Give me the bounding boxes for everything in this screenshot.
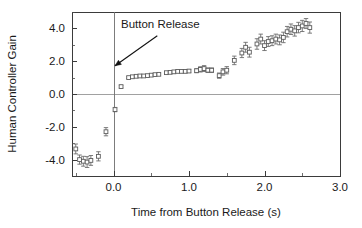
data-point	[104, 128, 108, 136]
data-marker	[285, 30, 289, 34]
data-marker	[172, 70, 176, 74]
data-marker	[153, 73, 157, 77]
data-marker	[97, 154, 101, 158]
x-axis-title: Time from Button Release (s)	[131, 206, 281, 218]
button-release-annotation: Button Release	[115, 18, 200, 66]
data-marker	[119, 85, 123, 89]
data-marker	[164, 71, 168, 75]
data-marker	[266, 40, 270, 44]
y-tick-label-0: 4.0	[49, 22, 65, 34]
data-point	[119, 85, 123, 89]
data-marker	[248, 50, 252, 54]
data-marker	[300, 24, 304, 28]
y-axis-tick-labels: 4.02.00.0-2.0-4.0	[45, 22, 65, 165]
data-point	[157, 72, 161, 76]
data-marker	[187, 69, 191, 73]
data-marker	[149, 73, 153, 77]
annotation-label-0: Button Release	[121, 18, 200, 30]
data-point	[96, 152, 100, 161]
data-marker	[81, 159, 85, 163]
data-marker	[304, 22, 308, 26]
y-tick-label-2: 0.0	[49, 88, 65, 100]
chart-canvas: 0.01.02.03.0 4.02.00.0-2.0-4.0 Button Re…	[0, 0, 362, 228]
y-axis-title: Human Controller Gain	[6, 35, 18, 153]
y-tick-label-3: -2.0	[45, 121, 65, 133]
data-marker	[297, 26, 301, 30]
data-marker	[78, 158, 82, 162]
x-axis-tick-labels: 0.01.02.03.0	[106, 181, 348, 193]
y-tick-label-1: 2.0	[49, 55, 65, 67]
data-point	[232, 56, 236, 65]
data-marker	[274, 37, 278, 41]
data-marker	[240, 51, 244, 55]
data-marker	[225, 68, 229, 72]
data-marker	[89, 159, 93, 163]
x-tick-label-3: 3.0	[332, 181, 348, 193]
data-point	[209, 68, 213, 73]
data-marker	[217, 74, 221, 78]
data-marker	[146, 74, 150, 78]
data-marker	[308, 26, 312, 30]
data-marker	[293, 29, 297, 33]
data-marker	[176, 69, 180, 73]
data-point	[187, 69, 191, 73]
data-marker	[180, 69, 184, 73]
data-marker	[232, 58, 236, 62]
data-marker	[104, 130, 108, 134]
annotation-arrow-line-0	[115, 36, 157, 66]
data-marker	[289, 27, 293, 31]
data-marker	[270, 39, 274, 43]
data-marker	[281, 36, 285, 40]
data-point	[74, 144, 78, 154]
data-marker	[138, 74, 142, 78]
data-marker	[206, 68, 210, 72]
data-marker	[127, 76, 131, 80]
data-marker	[263, 44, 267, 48]
annotation-arrow-head-0	[115, 60, 121, 66]
data-point	[113, 107, 117, 111]
data-marker	[259, 37, 263, 41]
data-marker	[113, 108, 117, 112]
data-marker	[198, 68, 202, 72]
data-marker	[183, 69, 187, 73]
x-tick-label-1: 1.0	[181, 181, 197, 193]
data-series-points	[74, 19, 312, 168]
data-marker	[142, 74, 146, 78]
data-marker	[85, 160, 89, 164]
data-marker	[157, 72, 161, 76]
series-0	[74, 19, 312, 168]
data-marker	[195, 69, 199, 73]
data-marker	[130, 75, 134, 79]
x-tick-label-0: 0.0	[106, 181, 122, 193]
data-marker	[244, 45, 248, 49]
data-marker	[210, 68, 214, 72]
x-tick-label-2: 2.0	[257, 181, 273, 193]
figure-container: 0.01.02.03.0 4.02.00.0-2.0-4.0 Button Re…	[0, 0, 362, 228]
data-marker	[278, 38, 282, 42]
data-marker	[74, 147, 78, 151]
data-marker	[168, 70, 172, 74]
data-marker	[202, 67, 206, 71]
data-point	[240, 48, 244, 57]
y-tick-label-4: -4.0	[45, 154, 65, 166]
data-marker	[221, 70, 225, 74]
data-marker	[255, 42, 259, 46]
data-marker	[134, 74, 138, 78]
